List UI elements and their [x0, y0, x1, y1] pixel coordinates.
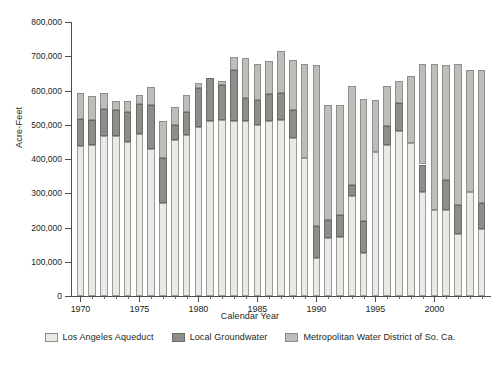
- bar-segment: [442, 65, 450, 180]
- x-axis-title: Calendar Year: [0, 311, 500, 321]
- bar-1999: [419, 64, 427, 296]
- x-tick-minor: [364, 296, 365, 299]
- bar-segment: [242, 121, 250, 296]
- x-tick-minor: [246, 296, 247, 299]
- bar-segment: [77, 93, 85, 119]
- x-tick-minor: [458, 296, 459, 299]
- bar-segment: [147, 105, 155, 150]
- legend-item[interactable]: Local Groundwater: [172, 332, 268, 342]
- bar-1981: [206, 78, 214, 296]
- bar-segment: [242, 98, 250, 121]
- bar-1992: [336, 105, 344, 296]
- x-tick-minor: [387, 296, 388, 299]
- bar-segment: [336, 215, 344, 237]
- bar-segment: [136, 134, 144, 296]
- bar-segment: [442, 180, 450, 210]
- x-tick-major: [257, 296, 258, 302]
- bar-1974: [124, 101, 132, 296]
- x-tick-minor: [128, 296, 129, 299]
- bar-segment: [183, 112, 191, 134]
- bar-segment: [289, 60, 297, 110]
- bar-segment: [313, 258, 321, 296]
- bar-segment: [313, 226, 321, 258]
- bar-segment: [395, 131, 403, 296]
- plot-area: 1970197519801985199019952000: [71, 22, 491, 296]
- bar-segment: [407, 143, 415, 296]
- bar-segment: [183, 95, 191, 113]
- y-tick: [65, 296, 71, 297]
- bar-2004: [478, 70, 486, 296]
- bar-segment: [395, 103, 403, 131]
- x-tick-minor: [423, 296, 424, 299]
- legend-item[interactable]: Metropolitan Water District of So. Ca.: [285, 332, 455, 342]
- bar-segment: [112, 110, 120, 137]
- bar-segment: [419, 165, 427, 192]
- bar-segment: [206, 121, 214, 296]
- bar-1989: [301, 64, 309, 296]
- bar-segment: [100, 93, 108, 109]
- bar-segment: [254, 64, 262, 100]
- y-tick-label: 200,000: [0, 224, 62, 233]
- chart-container: Acre-Feet 800,000700,000600,000500,00040…: [0, 0, 500, 368]
- bar-segment: [159, 158, 167, 203]
- y-tick: [65, 159, 71, 160]
- bar-1980: [195, 83, 203, 296]
- x-tick-minor: [470, 296, 471, 299]
- x-tick-major: [316, 296, 317, 302]
- bar-segment: [230, 121, 238, 296]
- y-tick-label: 500,000: [0, 121, 62, 130]
- bar-2003: [466, 70, 474, 296]
- x-tick-major: [80, 296, 81, 302]
- bar-1985: [254, 64, 262, 296]
- x-tick-minor: [446, 296, 447, 299]
- bar-segment: [171, 125, 179, 140]
- x-tick-major: [198, 296, 199, 302]
- bar-segment: [159, 203, 167, 297]
- bar-1971: [88, 96, 96, 296]
- bar-segment: [360, 221, 368, 253]
- chart-legend: Los Angeles AqueductLocal GroundwaterMet…: [0, 332, 500, 342]
- bar-segment: [431, 210, 439, 296]
- bar-1978: [171, 107, 179, 296]
- bar-1988: [289, 60, 297, 296]
- bar-segment: [254, 125, 262, 296]
- y-tick-label: 600,000: [0, 87, 62, 96]
- bar-segment: [206, 78, 214, 121]
- bar-segment: [230, 57, 238, 70]
- x-tick-minor: [482, 296, 483, 299]
- bar-segment: [88, 96, 96, 119]
- bar-segment: [171, 107, 179, 125]
- y-tick: [65, 228, 71, 229]
- bar-segment: [454, 234, 462, 296]
- bar-1979: [183, 95, 191, 296]
- swatch-groundwater-icon: [172, 333, 185, 342]
- bar-segment: [301, 158, 309, 296]
- bar-1993: [348, 86, 356, 296]
- bar-segment: [195, 127, 203, 296]
- x-tick-major: [139, 296, 140, 302]
- y-tick: [65, 91, 71, 92]
- bar-segment: [336, 237, 344, 296]
- bar-segment: [360, 99, 368, 220]
- bar-segment: [348, 185, 356, 196]
- bar-segment: [195, 88, 203, 127]
- bar-segment: [254, 100, 262, 125]
- bar-segment: [360, 253, 368, 296]
- bar-segment: [147, 87, 155, 104]
- bar-segment: [159, 121, 167, 158]
- x-tick-minor: [187, 296, 188, 299]
- legend-label: Local Groundwater: [190, 332, 268, 342]
- legend-label: Los Angeles Aqueduct: [63, 332, 154, 342]
- x-tick-minor: [151, 296, 152, 299]
- bar-segment: [419, 64, 427, 164]
- bar-1973: [112, 101, 120, 296]
- bar-segment: [77, 146, 85, 296]
- x-tick-minor: [104, 296, 105, 299]
- x-tick-minor: [175, 296, 176, 299]
- bar-segment: [277, 93, 285, 120]
- bar-segment: [324, 105, 332, 220]
- swatch-aqueduct-icon: [45, 333, 58, 342]
- bar-segment: [395, 81, 403, 103]
- bar-segment: [289, 110, 297, 138]
- legend-item[interactable]: Los Angeles Aqueduct: [45, 332, 154, 342]
